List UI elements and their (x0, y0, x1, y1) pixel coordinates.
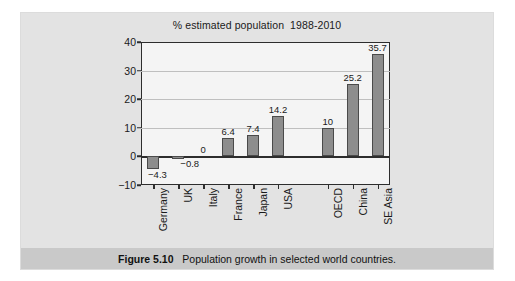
y-axis-tick-label: −10 (118, 179, 136, 191)
caption-description: Population growth in selected world coun… (182, 253, 396, 265)
x-axis-tick-mark (228, 185, 230, 189)
x-axis-tick-mark (153, 185, 155, 189)
x-axis-label-italy: Italy (207, 188, 219, 207)
x-axis-tick-mark (278, 185, 280, 189)
x-axis-label-china: China (357, 188, 369, 215)
caption-figure-number: Figure 5.10 (118, 253, 173, 265)
figure-caption: Figure 5.10 Population growth in selecte… (21, 248, 493, 269)
x-axis-tick-mark (178, 185, 180, 189)
x-axis-label-se-asia: SE Asia (382, 188, 394, 225)
x-axis-tick-mark (328, 185, 330, 189)
x-axis-label-oecd: OECD (332, 188, 344, 218)
x-axis-label-japan: Japan (257, 188, 269, 217)
x-axis: GermanyUKItalyFranceJapanUSAOECDChinaSE … (141, 42, 390, 185)
x-axis-tick-mark (203, 185, 205, 189)
caption-gap (174, 253, 183, 265)
y-axis-tick-label: 20 (124, 93, 136, 105)
caption-band: Figure 5.10 Population growth in selecte… (21, 248, 493, 269)
plot-area: −4.3−0.806.47.414.21025.235.7 403020100−… (141, 42, 390, 185)
y-axis-tick-label: 30 (124, 65, 136, 77)
figure-panel: % estimated population 1988-2010 −4.3−0.… (21, 13, 493, 269)
y-axis-tick-label: 10 (124, 122, 136, 134)
y-axis-tick-label: 40 (124, 36, 136, 48)
x-axis-label-france: France (232, 188, 244, 221)
x-axis-tick-mark (378, 185, 380, 189)
x-axis-tick-mark (253, 185, 255, 189)
x-axis-label-germany: Germany (157, 188, 169, 231)
x-axis-label-uk: UK (182, 188, 194, 203)
x-axis-label-usa: USA (282, 188, 294, 210)
y-axis-tick-label: 0 (130, 150, 136, 162)
screenshot-root: % estimated population 1988-2010 −4.3−0.… (0, 0, 515, 281)
x-axis-tick-mark (353, 185, 355, 189)
chart-title: % estimated population 1988-2010 (21, 19, 493, 31)
